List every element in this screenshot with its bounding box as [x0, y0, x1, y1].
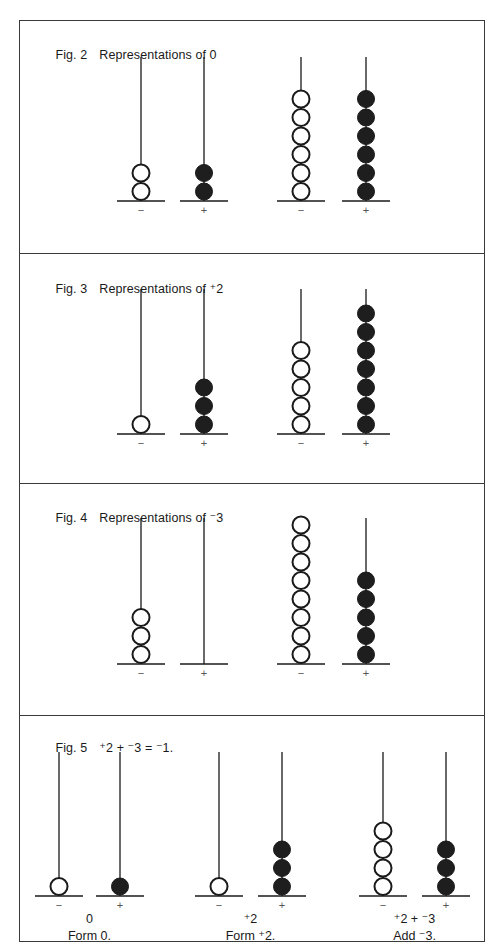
group-value-label: ⁺2 + ⁻3 [394, 912, 435, 926]
positive-bead [196, 398, 213, 415]
positive-bead [358, 324, 375, 341]
positive-bead [196, 183, 213, 200]
pole-group-1: −+0Form 0. [35, 752, 144, 943]
negative-bead [293, 398, 310, 415]
negative-bead [293, 183, 310, 200]
pole-group-2: −+ [277, 57, 390, 216]
negative-bead [133, 609, 150, 626]
plus-sign-label: + [363, 204, 369, 216]
minus-pole: − [277, 517, 325, 680]
positive-bead [438, 878, 455, 895]
minus-pole: − [195, 752, 243, 911]
group-value-label: 0 [86, 912, 93, 926]
plus-pole: + [96, 752, 144, 911]
positive-bead [438, 841, 455, 858]
positive-bead [274, 841, 291, 858]
plus-pole: + [342, 57, 390, 216]
negative-bead [293, 554, 310, 571]
positive-bead [112, 878, 129, 895]
positive-bead [358, 572, 375, 589]
negative-bead [211, 878, 228, 895]
figure-5-diagram: −+0Form 0.−+⁺2Form ⁺2.−+⁺2 + ⁻3Add ⁻3. [20, 716, 486, 942]
negative-bead [293, 91, 310, 108]
minus-pole: − [277, 289, 325, 449]
plus-sign-label: + [363, 437, 369, 449]
negative-bead [375, 823, 392, 840]
minus-pole: − [117, 57, 165, 216]
minus-sign-label: − [138, 437, 144, 449]
positive-bead [358, 91, 375, 108]
negative-bead [133, 165, 150, 182]
positive-bead [358, 416, 375, 433]
negative-bead [375, 878, 392, 895]
minus-pole: − [117, 289, 165, 449]
group-step-caption: Add ⁻3. [393, 929, 436, 943]
positive-bead [358, 165, 375, 182]
positive-bead [274, 860, 291, 877]
pole-group-2: −+⁺2Form ⁺2. [195, 752, 306, 943]
pole-group-1: −+ [117, 289, 228, 449]
negative-bead [293, 342, 310, 359]
minus-sign-label: − [298, 437, 304, 449]
positive-bead [358, 109, 375, 126]
minus-sign-label: − [216, 899, 222, 911]
plus-pole: + [342, 518, 390, 679]
negative-bead [375, 841, 392, 858]
positive-bead [438, 860, 455, 877]
pole-group-3: −+⁺2 + ⁻3Add ⁻3. [359, 752, 470, 943]
plus-pole: + [180, 57, 228, 216]
minus-pole: − [359, 752, 407, 911]
figure-3-panel: Fig. 3Representations of ⁺2 −+−+ [20, 253, 484, 483]
plus-pole: + [258, 752, 306, 911]
positive-bead [196, 165, 213, 182]
plus-sign-label: + [279, 899, 285, 911]
negative-bead [375, 860, 392, 877]
plus-sign-label: + [363, 667, 369, 679]
group-value-label: ⁺2 [244, 912, 258, 926]
minus-pole: − [117, 518, 165, 679]
figure-4-panel: Fig. 4Representations of ⁻3 −+−+ [20, 483, 484, 715]
pole-group-1: −+ [117, 518, 228, 679]
minus-pole: − [277, 57, 325, 216]
negative-bead [293, 361, 310, 378]
minus-sign-label: − [138, 667, 144, 679]
negative-bead [133, 646, 150, 663]
positive-bead [196, 379, 213, 396]
positive-bead [358, 398, 375, 415]
figure-3-diagram: −+−+ [20, 254, 486, 484]
positive-bead [358, 361, 375, 378]
minus-pole: − [35, 752, 83, 911]
positive-bead [358, 628, 375, 645]
positive-bead [358, 609, 375, 626]
negative-bead [293, 416, 310, 433]
plus-pole: + [180, 518, 228, 679]
positive-bead [358, 183, 375, 200]
minus-sign-label: − [298, 204, 304, 216]
negative-bead [133, 628, 150, 645]
pole-group-2: −+ [277, 517, 390, 680]
positive-bead [358, 591, 375, 608]
plus-pole: + [422, 752, 470, 911]
positive-bead [358, 305, 375, 322]
negative-bead [293, 379, 310, 396]
negative-bead [133, 183, 150, 200]
negative-bead [293, 109, 310, 126]
negative-bead [293, 572, 310, 589]
minus-sign-label: − [380, 899, 386, 911]
positive-bead [274, 878, 291, 895]
plus-sign-label: + [201, 667, 207, 679]
negative-bead [293, 609, 310, 626]
minus-sign-label: − [56, 899, 62, 911]
negative-bead [293, 517, 310, 534]
positive-bead [358, 128, 375, 145]
group-step-caption: Form ⁺2. [226, 929, 276, 943]
figure-2-panel: Fig. 2Representations of 0 −+−+ [20, 21, 484, 253]
figure-5-panel: Fig. 5⁺2 + ⁻3 = ⁻1. −+0Form 0.−+⁺2Form ⁺… [20, 715, 484, 941]
minus-sign-label: − [138, 204, 144, 216]
plus-sign-label: + [201, 204, 207, 216]
negative-bead [293, 628, 310, 645]
plus-pole: + [342, 289, 390, 449]
negative-bead [293, 535, 310, 552]
plus-pole: + [180, 289, 228, 449]
positive-bead [358, 146, 375, 163]
